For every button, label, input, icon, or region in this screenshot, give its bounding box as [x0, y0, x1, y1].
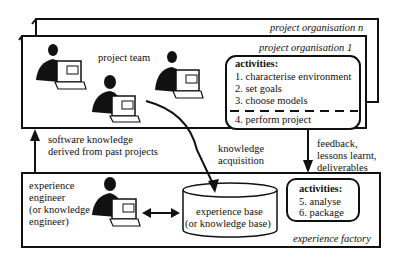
project-team-label: project team	[98, 52, 150, 63]
experience-engineer-label-line3: (or knowledge	[29, 204, 90, 215]
feedback-label-line1: feedback,	[317, 138, 358, 149]
factory-activity-item: 6. package	[299, 207, 344, 218]
activity-item: 3. choose models	[235, 95, 308, 106]
activity-item: 4. perform project	[235, 114, 311, 125]
feedback-arrow	[303, 128, 313, 173]
experience-engineer-label-line1: experience	[29, 180, 74, 191]
software-knowledge-arrow	[30, 129, 40, 173]
activity-item: 1. characterise environment	[235, 71, 351, 82]
knowledge-acquisition-label-line2: acquisition	[218, 155, 264, 166]
feedback-label-line2: lessons learnt,	[317, 150, 377, 161]
knowledge-acquisition-label-line1: knowledge	[218, 143, 264, 154]
software-knowledge-label-line2: derived from past projects	[48, 146, 158, 157]
software-knowledge-label-line1: software knowledge	[48, 134, 133, 145]
experience-engineer-label-line4: engineer)	[29, 216, 69, 227]
project-organisation-1-label: project organisation 1	[259, 42, 352, 53]
experience-base-label-line1: experience base	[196, 206, 263, 217]
factory-activities-title: activities:	[299, 183, 342, 194]
factory-activity-item: 5. analyse	[299, 196, 341, 207]
experience-engineer-label-line2: engineer	[29, 192, 65, 203]
feedback-label-line3: deliverables	[317, 162, 368, 173]
experience-factory-label: experience factory	[293, 233, 371, 244]
experience-base-label-line2: (or knowledge base)	[185, 218, 271, 229]
project-organisation-n-label: project organisation n	[270, 22, 363, 33]
activity-item: 2. set goals	[235, 83, 282, 94]
project-activities-title: activities:	[235, 58, 278, 69]
